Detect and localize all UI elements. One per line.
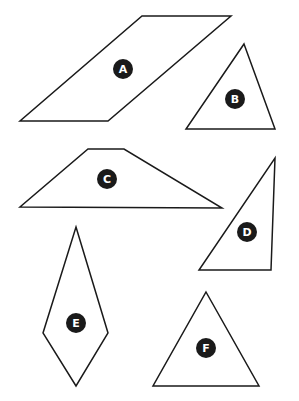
shape-e-outline [43,227,108,386]
diagram-svg: A B C D E F [0,0,299,401]
shape-a: A [20,16,231,121]
shape-e-label: E [72,317,80,330]
shapes-diagram: A B C D E F [0,0,299,401]
shape-a-label: A [119,63,128,76]
shape-d-outline [199,158,275,270]
shape-f: F [153,292,259,386]
shape-d: D [199,158,275,270]
shape-c: C [20,149,222,208]
shape-e: E [43,227,108,386]
shape-d-label: D [242,226,251,239]
shape-b-outline [186,44,275,129]
shape-f-label: F [202,342,210,355]
shape-c-label: C [103,173,111,186]
shape-c-outline [20,149,222,208]
shape-b: B [186,44,275,129]
shape-b-label: B [231,93,239,106]
